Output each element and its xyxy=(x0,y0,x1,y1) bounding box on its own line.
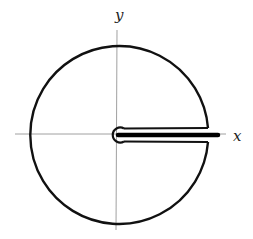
lower-segment xyxy=(124,142,208,143)
keyhole-contour-diagram: y x xyxy=(0,0,253,239)
upper-segment xyxy=(124,128,208,129)
y-axis-label: y xyxy=(114,6,124,24)
x-axis-label: x xyxy=(233,127,242,145)
